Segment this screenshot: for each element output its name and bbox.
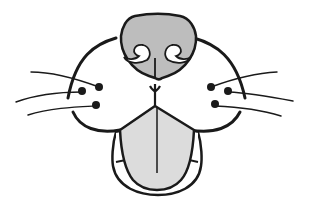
left-whisker-1: [31, 72, 99, 87]
left-whisker-3: [28, 106, 95, 115]
cat-muzzle-illustration: cat muzzle line drawing: [0, 0, 309, 212]
right-whisker-2: [228, 92, 293, 101]
nose: [121, 14, 196, 80]
right-lower-cheek: [190, 112, 240, 131]
left-whisker-dot-1: [95, 83, 103, 91]
left-lower-cheek: [73, 112, 120, 131]
left-whisker-2: [16, 92, 82, 102]
right-whisker-3: [215, 106, 281, 116]
right-cheek-outline: [194, 38, 245, 98]
left-whisker-dot-2: [78, 87, 86, 95]
right-whisker-dot-3: [211, 100, 219, 108]
right-whisker-dot-2: [224, 87, 232, 95]
left-whisker-dot-3: [92, 101, 100, 109]
right-whisker-dot-1: [207, 83, 215, 91]
left-cheek-outline: [68, 38, 116, 98]
right-whisker-1: [211, 72, 277, 87]
cat-muzzle-drawing: [0, 0, 309, 212]
philtrum: [150, 84, 160, 106]
